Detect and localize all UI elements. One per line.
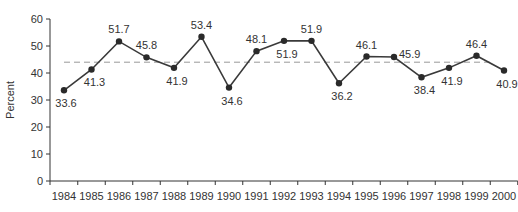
data-point-marker bbox=[501, 67, 507, 73]
y-tick-label: 20 bbox=[31, 121, 43, 133]
data-point-marker bbox=[473, 53, 479, 59]
data-point-marker bbox=[253, 48, 259, 54]
x-tick-label: 1999 bbox=[464, 190, 488, 202]
x-tick-label: 1991 bbox=[244, 190, 268, 202]
y-tick-label: 40 bbox=[31, 67, 43, 79]
y-tick-label: 0 bbox=[37, 175, 43, 187]
data-point-marker bbox=[226, 84, 232, 90]
x-axis: 1984198519861987198819891990199119921993… bbox=[50, 181, 518, 202]
data-point-marker bbox=[446, 65, 452, 71]
x-tick-label: 1995 bbox=[354, 190, 378, 202]
data-label: 48.1 bbox=[246, 33, 267, 45]
data-label: 45.8 bbox=[136, 39, 157, 51]
x-tick-label: 2000 bbox=[492, 190, 516, 202]
x-tick-label: 1992 bbox=[272, 190, 296, 202]
data-label: 51.7 bbox=[108, 23, 129, 35]
data-point-marker bbox=[171, 65, 177, 71]
y-tick-label: 10 bbox=[31, 148, 43, 160]
series-line bbox=[64, 37, 504, 90]
data-label: 53.4 bbox=[191, 19, 212, 31]
data-point-marker bbox=[391, 54, 397, 60]
data-label: 38.4 bbox=[414, 84, 435, 96]
data-point-marker bbox=[88, 66, 94, 72]
x-tick-label: 1986 bbox=[107, 190, 131, 202]
data-label: 46.1 bbox=[356, 39, 377, 51]
data-label: 41.9 bbox=[441, 75, 462, 87]
data-point-marker bbox=[336, 80, 342, 86]
x-tick-label: 1994 bbox=[327, 190, 351, 202]
x-tick-label: 1989 bbox=[189, 190, 213, 202]
x-tick-label: 1990 bbox=[217, 190, 241, 202]
data-label: 45.9 bbox=[399, 48, 420, 60]
data-point-marker bbox=[143, 54, 149, 60]
data-label: 51.9 bbox=[276, 48, 297, 60]
data-point-marker bbox=[116, 38, 122, 44]
data-label: 34.6 bbox=[221, 95, 242, 107]
x-tick-label: 1984 bbox=[52, 190, 76, 202]
data-point-marker bbox=[198, 34, 204, 40]
x-tick-label: 1996 bbox=[382, 190, 406, 202]
data-label: 41.3 bbox=[84, 76, 105, 88]
x-tick-label: 1997 bbox=[409, 190, 433, 202]
data-label: 40.9 bbox=[496, 78, 517, 90]
data-point-marker bbox=[61, 87, 67, 93]
data-label: 33.6 bbox=[55, 97, 76, 109]
data-label: 46.4 bbox=[466, 38, 487, 50]
data-point-marker bbox=[281, 38, 287, 44]
data-point-marker bbox=[363, 53, 369, 59]
data-point-marker bbox=[308, 38, 314, 44]
y-tick-label: 50 bbox=[31, 40, 43, 52]
data-label: 41.9 bbox=[166, 75, 187, 87]
x-tick-label: 1998 bbox=[437, 190, 461, 202]
data-label: 51.9 bbox=[301, 23, 322, 35]
y-axis: 0102030405060 bbox=[31, 13, 50, 187]
data-labels: 33.641.351.745.841.953.434.648.151.951.9… bbox=[55, 19, 517, 109]
y-tick-label: 30 bbox=[31, 94, 43, 106]
x-tick-label: 1985 bbox=[79, 190, 103, 202]
x-tick-label: 1987 bbox=[134, 190, 158, 202]
data-point-marker bbox=[418, 74, 424, 80]
data-series bbox=[61, 34, 507, 94]
x-tick-label: 1993 bbox=[299, 190, 323, 202]
line-chart: 0102030405060 19841985198619871988198919… bbox=[0, 0, 518, 212]
y-tick-label: 60 bbox=[31, 13, 43, 25]
x-tick-label: 1988 bbox=[162, 190, 186, 202]
data-label: 36.2 bbox=[331, 90, 352, 102]
y-axis-label: Percent bbox=[4, 81, 16, 119]
